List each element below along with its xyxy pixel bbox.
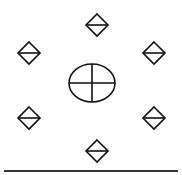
- symbol-diagram: [0, 0, 182, 175]
- diamond-top-icon: [86, 14, 108, 36]
- diagram-canvas: [0, 0, 182, 175]
- diamond-lower-right-icon: [143, 107, 165, 129]
- diamond-upper-right-icon: [143, 42, 165, 64]
- diamond-bottom-icon: [86, 140, 108, 162]
- diamond-lower-left-icon: [18, 107, 40, 129]
- diamond-upper-left-icon: [18, 42, 40, 64]
- center-ellipse-cross-icon: [69, 64, 115, 102]
